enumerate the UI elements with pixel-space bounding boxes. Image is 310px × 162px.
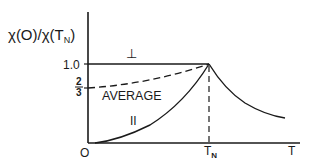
chi-arg-tn-close: ) <box>70 26 75 43</box>
x-tick-label-tn: TN <box>204 144 217 160</box>
diagram-svg: χ(O)/χ(TN) 1.0 2 3 ⊥ AVERAGE II O TN T <box>0 0 310 162</box>
average-curve <box>88 64 209 88</box>
chi-symbol: χ <box>8 26 16 43</box>
x-tick-label-origin: O <box>80 146 89 160</box>
y-tick-label-one: 1.0 <box>63 58 80 72</box>
average-label: AVERAGE <box>102 89 162 103</box>
x-axis-label-t: T <box>288 144 296 158</box>
susceptibility-diagram: χ(O)/χ(TN) 1.0 2 3 ⊥ AVERAGE II O TN T <box>0 0 310 162</box>
y-tick-label-frac-num: 2 <box>76 76 82 87</box>
tn-sub: N <box>211 151 217 160</box>
perpendicular-label: ⊥ <box>126 46 137 61</box>
y-tick-label-frac-den: 3 <box>76 87 82 98</box>
parallel-curve <box>95 64 209 143</box>
chi-arg-tn-open: (T <box>50 26 64 43</box>
chi-symbol-2: χ <box>42 26 50 43</box>
y-axis-label: χ(O)/χ(TN) <box>8 26 75 45</box>
chi-arg-zero: (O) <box>16 26 38 43</box>
paramagnetic-curve <box>209 64 285 118</box>
parallel-label: II <box>130 114 137 128</box>
